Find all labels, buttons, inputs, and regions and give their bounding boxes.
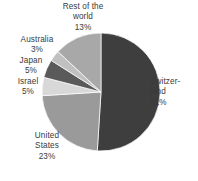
pie-label-united-states: United States 23% [16,131,78,162]
pie-label-switzerland: Switzer- land 51% [150,77,198,108]
pie-label-australia: Australia 3% [6,35,68,56]
pie-label-rest-of-the-world: Rest of the world 13% [46,2,120,33]
pie-label-israel: Israel 5% [0,77,56,98]
pie-chart-figure: Rest of the world 13% Australia 3% Japan… [0,0,198,181]
pie-label-japan: Japan 5% [2,56,60,77]
